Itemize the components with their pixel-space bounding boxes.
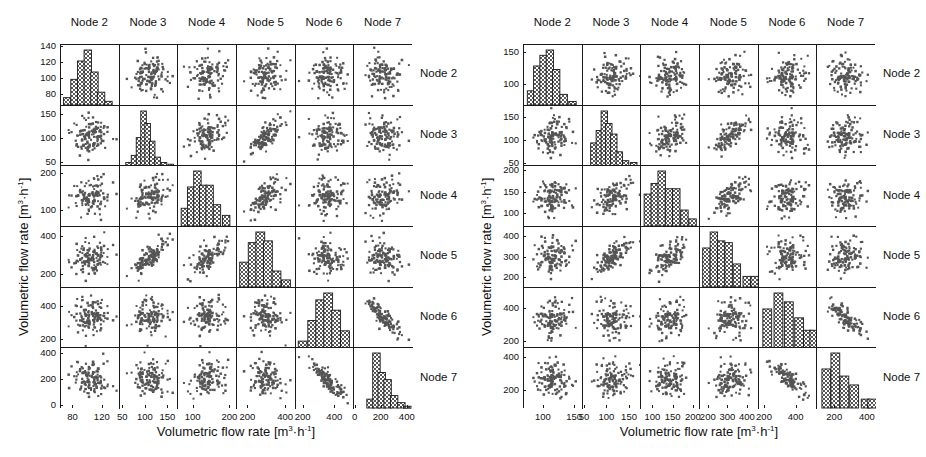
plot-canvas (61, 348, 120, 409)
y-tick-label: 150 (26, 109, 56, 118)
row-header-node-7: Node 7 (883, 371, 920, 383)
splom-scatter-node-4-vs-node-3 (178, 106, 237, 167)
column-header-node-5: Node 5 (699, 16, 758, 28)
plot-canvas (237, 45, 296, 106)
x-tick-mark (72, 405, 73, 408)
y-tick-label: 140 (26, 41, 56, 50)
y-tick-label: 150 (489, 47, 519, 56)
plot-canvas (759, 348, 818, 409)
y-tick-label: 400 (26, 348, 56, 357)
plot-canvas (296, 348, 355, 409)
plot-canvas (296, 288, 355, 349)
y-tick-label: 50 (26, 157, 56, 166)
splom-scatter-node-4-vs-node-5 (641, 227, 700, 288)
column-header-node-2: Node 2 (523, 16, 582, 28)
splom-scatter-node-6-vs-node-4 (296, 166, 355, 227)
plot-canvas (817, 106, 876, 167)
plot-canvas (120, 288, 179, 349)
splom-scatter-node-7-vs-node-4 (354, 166, 413, 227)
splom-scatter-node-6-vs-node-2 (759, 45, 818, 106)
y-tick-mark (60, 353, 63, 354)
y-tick-mark (523, 236, 526, 237)
y-tick-mark (523, 308, 526, 309)
splom-histogram-node-6 (759, 288, 818, 349)
y-tick-mark (60, 173, 63, 174)
splom-scatter-node-3-vs-node-7 (583, 348, 642, 409)
x-tick-mark (747, 405, 748, 408)
splom-scatter-node-2-vs-node-7 (524, 348, 583, 409)
splom-scatter-node-4-vs-node-6 (641, 288, 700, 349)
plot-canvas (178, 288, 237, 349)
plot-canvas (759, 227, 818, 288)
x-tick-mark (606, 405, 607, 408)
plot-canvas (641, 106, 700, 167)
plot-canvas (120, 166, 179, 227)
splom-scatter-node-6-vs-node-5 (296, 227, 355, 288)
y-tick-mark (523, 213, 526, 214)
plot-canvas (296, 106, 355, 167)
splom-panel-left: Node 2Node 3Node 4Node 5Node 6Node 7Node… (0, 0, 463, 457)
x-tick-mark (693, 405, 694, 408)
plot-canvas (120, 348, 179, 409)
y-tick-label: 400 (26, 231, 56, 240)
x-tick-label: 400 (391, 412, 423, 421)
row-header-node-3: Node 3 (883, 128, 920, 140)
splom-scatter-node-2-vs-node-3 (61, 106, 120, 167)
plot-canvas (237, 166, 296, 227)
column-header-node-6: Node 6 (758, 16, 817, 28)
splom-histogram-node-5 (237, 227, 296, 288)
plot-canvas (237, 348, 296, 409)
splom-panel-right: Node 2Node 3Node 4Node 5Node 6Node 7Node… (463, 0, 926, 457)
y-tick-mark (60, 62, 63, 63)
y-tick-label: 120 (26, 57, 56, 66)
splom-scatter-node-2-vs-node-6 (524, 288, 583, 349)
x-tick-mark (102, 405, 103, 408)
plot-canvas (237, 288, 296, 349)
x-tick-mark (673, 405, 674, 408)
x-tick-mark (229, 405, 230, 408)
x-axis-title: Volumetric flow rate [m3·h-1] (523, 424, 875, 439)
splom-scatter-node-5-vs-node-7 (237, 348, 296, 409)
y-tick-mark (523, 277, 526, 278)
splom-scatter-node-7-vs-node-6 (354, 288, 413, 349)
y-tick-mark (523, 52, 526, 53)
y-tick-mark (60, 210, 63, 211)
splom-scatter-node-3-vs-node-2 (120, 45, 179, 106)
y-tick-label: 150 (489, 112, 519, 121)
y-tick-mark (523, 140, 526, 141)
splom-histogram-node-4 (641, 166, 700, 227)
column-header-node-6: Node 6 (295, 16, 354, 28)
splom-scatter-node-7-vs-node-5 (354, 227, 413, 288)
x-tick-label: 100 (527, 412, 559, 421)
splom-histogram-node-6 (296, 288, 355, 349)
column-header-node-7: Node 7 (816, 16, 875, 28)
plot-canvas (700, 45, 759, 106)
splom-histogram-node-3 (120, 106, 179, 167)
splom-scatter-node-4-vs-node-5 (178, 227, 237, 288)
plot-canvas (817, 166, 876, 227)
plot-canvas (583, 166, 642, 227)
y-tick-label: 100 (489, 135, 519, 144)
plot-canvas (583, 348, 642, 409)
plot-canvas (354, 45, 413, 106)
y-tick-label: 400 (489, 352, 519, 361)
row-header-node-6: Node 6 (420, 310, 457, 322)
y-tick-label: 200 (489, 336, 519, 345)
splom-scatter-node-3-vs-node-4 (583, 166, 642, 227)
column-header-node-5: Node 5 (236, 16, 295, 28)
splom-scatter-node-5-vs-node-4 (237, 166, 296, 227)
y-tick-mark (60, 46, 63, 47)
splom-scatter-node-4-vs-node-3 (641, 106, 700, 167)
splom-scatter-node-6-vs-node-7 (296, 348, 355, 409)
splom-scatter-node-3-vs-node-5 (583, 227, 642, 288)
x-tick-label: 200 (231, 412, 263, 421)
row-header-node-2: Node 2 (420, 67, 457, 79)
splom-scatter-node-3-vs-node-4 (120, 166, 179, 227)
x-tick-mark (285, 405, 286, 408)
plot-canvas (61, 166, 120, 227)
x-tick-label: 200 (818, 412, 850, 421)
plot-canvas (296, 45, 355, 106)
row-header-node-4: Node 4 (883, 189, 920, 201)
splom-scatter-node-6-vs-node-4 (759, 166, 818, 227)
y-tick-label: 200 (26, 269, 56, 278)
